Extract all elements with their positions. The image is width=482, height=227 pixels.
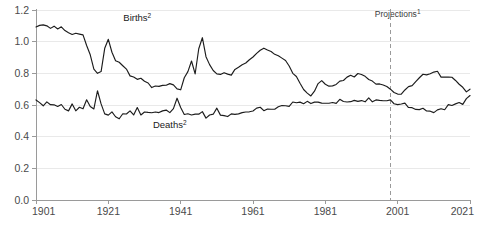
y-tick-label-1.2: 1.2 [14,4,29,16]
y-tick-label-0.4: 0.4 [14,130,29,142]
projections-label-text: Projections [375,9,417,19]
deaths-label-superscript: 2 [183,119,187,126]
x-tick-label-2021: 2021 [451,205,475,217]
y-tick-label-0.2: 0.2 [14,162,29,174]
projections-label: Projections1 [375,8,421,19]
x-tick-label-1941: 1941 [169,205,193,217]
births-label-text: Births [123,12,148,23]
births-label-superscript: 2 [148,12,152,19]
x-axis-tick-labels: 1901192119411961198120012021 [32,205,474,217]
y-tick-label-1.0: 1.0 [14,35,29,47]
y-tick-label-0.8: 0.8 [14,67,29,79]
line-chart: 0.00.20.40.60.81.01.2 190119211941196119… [0,0,482,227]
x-tick-label-1901: 1901 [32,205,56,217]
chart-container: 0.00.20.40.60.81.01.2 190119211941196119… [0,0,482,227]
x-tick-label-1921: 1921 [97,205,121,217]
y-tick-label-0.0: 0.0 [14,194,29,206]
projections-label-superscript: 1 [417,8,421,15]
x-tick-label-1961: 1961 [241,205,265,217]
births-label: Births2 [123,12,151,23]
x-tick-label-2001: 2001 [386,205,410,217]
y-tick-label-0.6: 0.6 [14,99,29,111]
x-tick-label-1981: 1981 [314,205,338,217]
deaths-label-text: Deaths [153,119,183,130]
deaths-label: Deaths2 [153,119,187,130]
